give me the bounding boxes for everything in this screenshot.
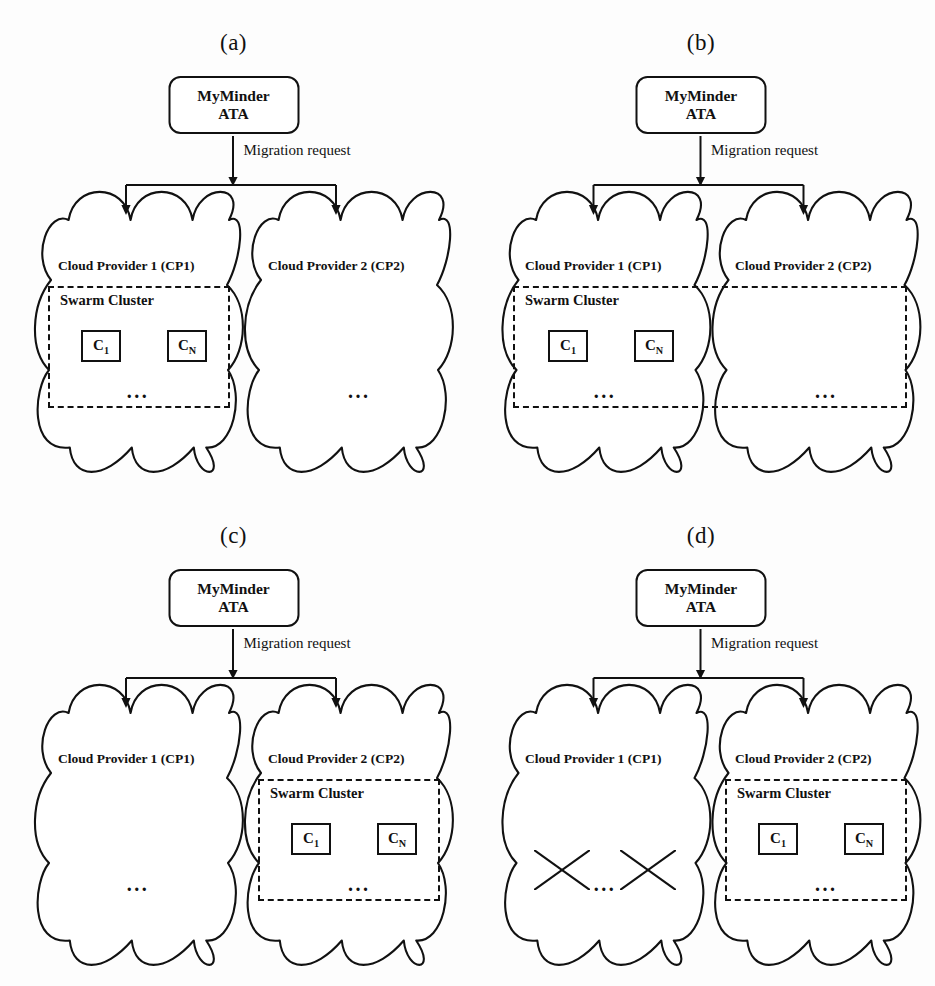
myminder-line1: MyMinder — [197, 87, 269, 105]
cloud-cp1 — [35, 685, 243, 965]
myminder-line2: ATA — [218, 598, 248, 616]
swarm-cluster-label: Swarm Cluster — [737, 785, 831, 802]
container-box[interactable]: C1 — [758, 823, 798, 855]
swarm-cluster-label: Swarm Cluster — [270, 785, 364, 802]
myminder-ata-box[interactable]: MyMinderATA — [636, 569, 767, 627]
myminder-line1: MyMinder — [665, 87, 737, 105]
container-label: CN — [388, 830, 406, 849]
panel-d: (d)MyMinderATAMigration requestCloud Pro… — [467, 493, 935, 986]
ellipsis-between-vms: ... — [126, 381, 150, 401]
cloud-shapes — [0, 0, 467, 493]
container-box[interactable]: CN — [634, 330, 674, 362]
myminder-ata-box[interactable]: MyMinderATA — [168, 76, 299, 134]
cloud-cp1 — [502, 685, 710, 965]
ellipsis-between-vms: ... — [593, 381, 617, 401]
container-box[interactable]: CN — [167, 330, 207, 362]
container-box[interactable]: CN — [377, 823, 417, 855]
cloud-shapes — [467, 493, 935, 986]
ellipsis-between-vms: ... — [815, 874, 831, 894]
ellipsis-between-vms: ... — [348, 381, 364, 401]
cloud-label-cp1: Cloud Provider 1 (CP1) — [525, 258, 661, 274]
cloud-shapes — [0, 493, 467, 986]
ellipsis-between-vms: ... — [126, 874, 150, 894]
container-box[interactable]: C1 — [548, 330, 588, 362]
container-label: CN — [178, 337, 196, 356]
myminder-line1: MyMinder — [665, 580, 737, 598]
cloud-label-cp2: Cloud Provider 2 (CP2) — [735, 751, 871, 767]
container-label: CN — [855, 830, 873, 849]
swarm-cluster-label: Swarm Cluster — [60, 292, 154, 309]
container-box[interactable]: C1 — [81, 330, 121, 362]
cloud-label-cp1: Cloud Provider 1 (CP1) — [58, 751, 194, 767]
ellipsis-between-vms: ... — [593, 874, 617, 894]
container-box[interactable]: C1 — [291, 823, 331, 855]
swarm-cluster-label: Swarm Cluster — [525, 292, 619, 309]
container-label: CN — [645, 337, 663, 356]
myminder-line2: ATA — [686, 105, 716, 123]
myminder-ata-box[interactable]: MyMinderATA — [636, 76, 767, 134]
cloud-label-cp2: Cloud Provider 2 (CP2) — [735, 258, 871, 274]
cloud-shapes — [467, 0, 935, 493]
myminder-line1: MyMinder — [197, 580, 269, 598]
figure-grid: (a)MyMinderATAMigration requestCloud Pro… — [0, 0, 935, 986]
container-box[interactable]: CN — [844, 823, 884, 855]
container-label: C1 — [93, 337, 109, 356]
cloud-label-cp1: Cloud Provider 1 (CP1) — [58, 258, 194, 274]
cloud-label-cp2: Cloud Provider 2 (CP2) — [268, 258, 404, 274]
cloud-cp2 — [245, 192, 453, 472]
panel-c: (c)MyMinderATAMigration requestCloud Pro… — [0, 493, 467, 986]
myminder-line2: ATA — [218, 105, 248, 123]
panel-b: (b)MyMinderATAMigration requestCloud Pro… — [467, 0, 935, 493]
panel-a: (a)MyMinderATAMigration requestCloud Pro… — [0, 0, 467, 493]
myminder-ata-box[interactable]: MyMinderATA — [168, 569, 299, 627]
container-label: C1 — [560, 337, 576, 356]
cloud-label-cp2: Cloud Provider 2 (CP2) — [268, 751, 404, 767]
container-label: C1 — [770, 830, 786, 849]
myminder-line2: ATA — [686, 598, 716, 616]
ellipsis-between-vms: ... — [348, 874, 364, 894]
container-label: C1 — [303, 830, 319, 849]
ellipsis-between-vms: ... — [815, 381, 831, 401]
cloud-label-cp1: Cloud Provider 1 (CP1) — [525, 751, 661, 767]
